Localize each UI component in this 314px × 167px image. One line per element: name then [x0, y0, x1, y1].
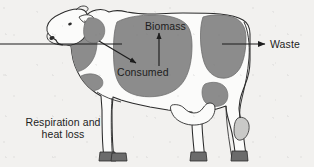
hoof-hind-left	[190, 152, 207, 161]
cow-head	[47, 9, 88, 45]
label-waste: Waste	[270, 39, 300, 51]
patch-flank-lower	[202, 82, 228, 106]
patch-head	[84, 18, 105, 43]
label-biomass: Biomass	[145, 21, 186, 33]
cow-tail-tuft-icon	[234, 117, 249, 140]
label-consumed: Consumed	[117, 67, 169, 79]
hoof-hind-right	[231, 151, 248, 161]
patch-shoulder-small	[78, 74, 103, 91]
patch-rump	[200, 15, 246, 78]
label-respiration-heat-loss: Respiration and heat loss	[14, 117, 112, 140]
hoof-front-right	[111, 153, 127, 161]
